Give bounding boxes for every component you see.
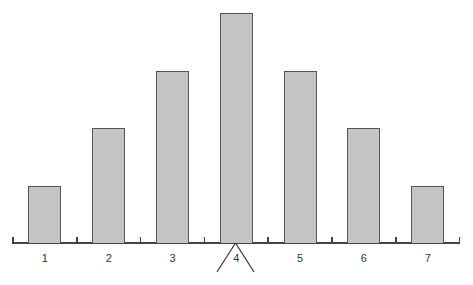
x-axis-tick — [331, 237, 333, 242]
x-tick-label: 2 — [94, 252, 124, 264]
bar-1 — [28, 186, 61, 244]
x-axis-tick — [267, 237, 269, 242]
bar-7 — [411, 186, 444, 244]
bar-3 — [156, 71, 189, 244]
x-axis-tick — [459, 237, 461, 242]
x-axis-tick — [395, 237, 397, 242]
x-tick-label: 6 — [349, 252, 379, 264]
x-tick-label: 1 — [30, 252, 60, 264]
bar-4 — [220, 13, 253, 243]
x-axis-tick — [204, 237, 206, 242]
x-axis-tick — [12, 237, 14, 242]
bar-2 — [92, 128, 125, 243]
x-tick-label: 4 — [221, 252, 251, 264]
bar-5 — [284, 71, 317, 244]
bar-6 — [347, 128, 380, 243]
bar-chart: 1234567 — [0, 0, 473, 285]
x-tick-label: 5 — [285, 252, 315, 264]
x-tick-label: 3 — [158, 252, 188, 264]
x-axis-tick — [76, 237, 78, 242]
x-axis-tick — [140, 237, 142, 242]
x-tick-label: 7 — [413, 252, 443, 264]
